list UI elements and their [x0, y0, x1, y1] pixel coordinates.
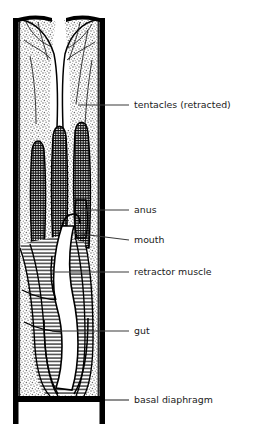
anus-tube: [75, 200, 88, 238]
basal-diaphragm-bar: [13, 396, 105, 402]
label-gut: gut: [134, 325, 150, 336]
label-tentacles: tentacles (retracted): [134, 99, 231, 110]
basal-diaphragm-leg-right: [100, 402, 106, 424]
diagram-figure: tentacles (retracted) anus mouth retract…: [0, 0, 273, 436]
label-retractor-muscle: retractor muscle: [134, 266, 212, 277]
specimen: [18, 20, 100, 396]
label-mouth: mouth: [134, 234, 164, 245]
anatomical-diagram-svg: tentacles (retracted) anus mouth retract…: [0, 0, 273, 436]
basal-diaphragm-leg-left: [13, 402, 19, 424]
label-basal-diaphragm: basal diaphragm: [134, 394, 213, 405]
tube-wall-left: [13, 18, 19, 399]
tube-wall-right: [100, 18, 106, 399]
label-anus: anus: [134, 204, 157, 215]
tube-liner-right: [98, 18, 100, 399]
tentacle-bundle-left: [31, 141, 46, 254]
tube-liner-left: [19, 18, 21, 399]
